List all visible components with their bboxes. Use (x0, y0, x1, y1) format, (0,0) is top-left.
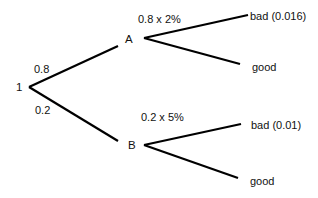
outcome-a-bad: bad (0.016) (250, 10, 306, 22)
outcome-b-good: good (250, 175, 274, 187)
outcome-b-bad: bad (0.01) (251, 119, 301, 131)
node-b-calculation: 0.2 x 5% (141, 111, 184, 123)
node-a-calculation: 0.8 x 2% (138, 13, 181, 25)
edge-b-to-bad (144, 124, 241, 145)
branch-a-probability: 0.8 (34, 63, 49, 75)
branch-b-probability: 0.2 (35, 104, 50, 116)
edge-b-to-good (144, 145, 238, 178)
root-node-label: 1 (16, 81, 22, 93)
outcome-a-good: good (252, 61, 276, 73)
node-a-label: A (125, 33, 133, 45)
tree-diagram (0, 0, 318, 198)
edge-a-to-good (144, 38, 240, 64)
node-b-label: B (128, 139, 136, 151)
